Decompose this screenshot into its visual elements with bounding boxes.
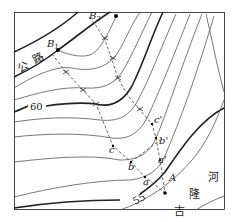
point-b-prime [155, 137, 157, 139]
road-edge-upper [14, 12, 78, 52]
river-label-1: 河 [208, 171, 219, 184]
label-a: a [143, 176, 149, 187]
point-b2 [114, 14, 118, 18]
profile-line-b1 [52, 54, 165, 193]
label-c-prime: c' [154, 114, 162, 125]
contour-line [14, 16, 214, 197]
label-b-prime: b' [159, 135, 168, 146]
river-bank-line [196, 196, 224, 210]
profile-link [131, 140, 160, 162]
point-c-prime [151, 123, 153, 125]
contour-line [206, 14, 224, 92]
point-a [163, 191, 167, 195]
contour-map-diagram: 公 路 B1 B2 60 55 A a a' b b' c c' 河 隆 吉 [0, 0, 234, 222]
road-label-2: 路 [31, 50, 47, 67]
crossing-marks [63, 36, 143, 111]
contour-label-55: 55 [131, 191, 148, 207]
label-c: c [109, 144, 115, 155]
label-A: A [168, 172, 176, 183]
contour-label-60: 60 [30, 101, 43, 112]
label-b: b [128, 161, 134, 172]
label-b1: B1 [46, 38, 59, 51]
label-a-prime: a' [158, 154, 167, 165]
road-label-1: 公 [16, 59, 32, 76]
label-b2: B2 [88, 10, 101, 23]
contour-line [14, 12, 140, 88]
river-label-3: 吉 [174, 205, 185, 218]
river-label-2: 隆 [189, 187, 200, 201]
